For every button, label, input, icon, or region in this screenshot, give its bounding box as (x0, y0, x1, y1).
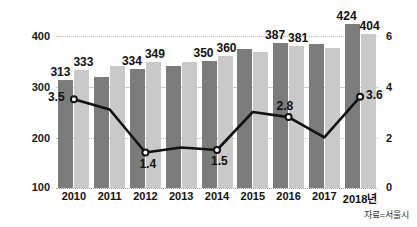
bar-label-dark: 313 (50, 65, 70, 79)
right-axis-tick-4: 4 (386, 81, 408, 93)
left-axis-tick-300: 300 (14, 81, 50, 93)
left-axis-tick-400: 400 (14, 30, 50, 42)
x-axis-tick: 2015 (241, 190, 265, 202)
bar-label-dark: 424 (337, 9, 357, 23)
left-axis-tick-200: 200 (14, 132, 50, 144)
line-point-label: 1.5 (211, 154, 228, 168)
plot-area: 3.51.41.52.83.6 313333334349350360387381… (56, 18, 378, 188)
x-axis-tick: 2017 (312, 190, 336, 202)
x-axis-tick: 2016 (276, 190, 300, 202)
bar-label-light: 333 (73, 55, 93, 69)
x-axis-tick: 2014 (205, 190, 229, 202)
bar-label-dark: 334 (122, 54, 142, 68)
line-point-label: 3.5 (48, 90, 65, 104)
rate-line-markers (71, 94, 363, 156)
bar-label-dark: 350 (194, 46, 214, 60)
x-axis: 201020112012201320142015201620172018년 (56, 190, 378, 206)
x-axis-tick: 2010 (62, 190, 86, 202)
chart-figure: 400 300 200 100 6 4 2 0 3.51.41.52.83.6 … (0, 0, 417, 227)
source-note: 자료=서울시 (364, 208, 409, 221)
x-axis-tick: 2018년 (343, 190, 377, 206)
right-axis-tick-2: 2 (386, 132, 408, 144)
line-marker (71, 96, 77, 102)
right-axis-tick-6: 6 (386, 30, 408, 42)
right-axis-tick-0: 0 (386, 181, 408, 193)
x-axis-tick: 2012 (133, 190, 157, 202)
line-marker (214, 147, 220, 153)
left-axis-tick-100: 100 (14, 181, 50, 193)
bar-label-light: 381 (288, 31, 308, 45)
rate-line-path (74, 97, 360, 153)
gridline-100-baseline (56, 188, 378, 189)
x-axis-tick: 2013 (169, 190, 193, 202)
line-point-label: 1.4 (139, 157, 156, 171)
bar-label-dark: 387 (265, 28, 285, 42)
bar-label-light: 360 (217, 41, 237, 55)
line-point-label: 2.8 (277, 99, 294, 113)
x-axis-tick: 2011 (98, 190, 122, 202)
line-marker (357, 94, 363, 100)
line-marker (142, 150, 148, 156)
line-point-label: 3.6 (366, 88, 383, 102)
line-marker (286, 114, 292, 120)
clipped-header-strip (0, 0, 417, 9)
bar-label-light: 404 (360, 19, 380, 33)
bar-label-light: 349 (145, 47, 165, 61)
